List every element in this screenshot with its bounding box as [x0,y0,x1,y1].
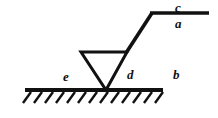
hatch-mark [56,92,64,103]
hatch-mark [133,92,141,103]
hatch-mark [78,92,86,103]
hatch-mark [111,92,119,103]
hatch-mark [89,92,97,103]
label-d: d [127,68,134,81]
ground-hatching [23,92,163,103]
inclined-link-line [126,13,152,53]
label-a: a [175,17,182,30]
hatch-mark [155,92,163,103]
label-b: b [173,68,180,81]
inverted-triangle-fulcrum [81,52,127,90]
diagram-vector-layer [0,0,218,118]
label-c: c [175,1,181,14]
hatch-mark [23,92,31,103]
diagram-canvas: c a b d e [0,0,218,118]
label-e: e [63,70,69,83]
hatch-mark [45,92,53,103]
hatch-mark [67,92,75,103]
hatch-mark [34,92,42,103]
hatch-mark [144,92,152,103]
hatch-mark [100,92,108,103]
hatch-mark [122,92,130,103]
